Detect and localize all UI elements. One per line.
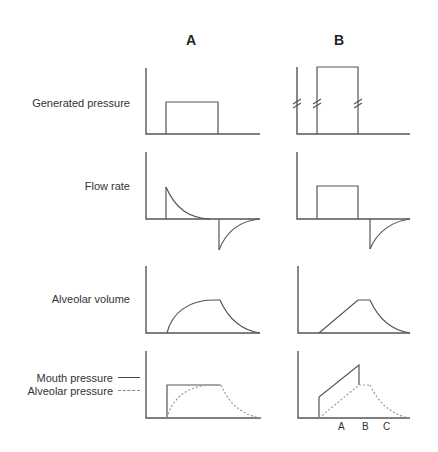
plot-a-flow-rate: [146, 152, 260, 250]
diagram-canvas: [0, 0, 438, 452]
plot-a-alveolar-volume: [146, 266, 260, 333]
plot-b-generated-pressure: [293, 67, 410, 134]
plot-b-pressures: [298, 351, 410, 418]
plot-b-flow-rate: [297, 152, 410, 249]
plot-a-generated-pressure: [146, 68, 260, 134]
time-marker-b: B: [362, 421, 369, 432]
plot-a-pressures: [146, 351, 261, 418]
time-marker-a: A: [338, 421, 345, 432]
time-marker-c: C: [383, 421, 390, 432]
plot-b-alveolar-volume: [298, 266, 410, 333]
